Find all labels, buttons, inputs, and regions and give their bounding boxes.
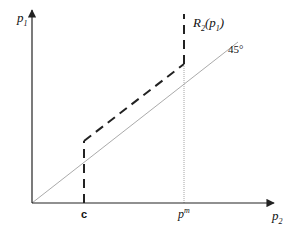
45-degree-line — [32, 42, 238, 203]
curve-label: R2(p1) — [193, 15, 224, 33]
tick-label-pm: pm — [178, 206, 190, 222]
diagram-canvas — [0, 0, 292, 232]
tick-label-c: c — [81, 208, 87, 220]
45-degree-label: 45° — [228, 43, 243, 55]
reaction-curve-r2 — [84, 14, 184, 203]
x-axis-label: p2 — [272, 208, 283, 226]
y-axis-label: p1 — [17, 10, 28, 28]
